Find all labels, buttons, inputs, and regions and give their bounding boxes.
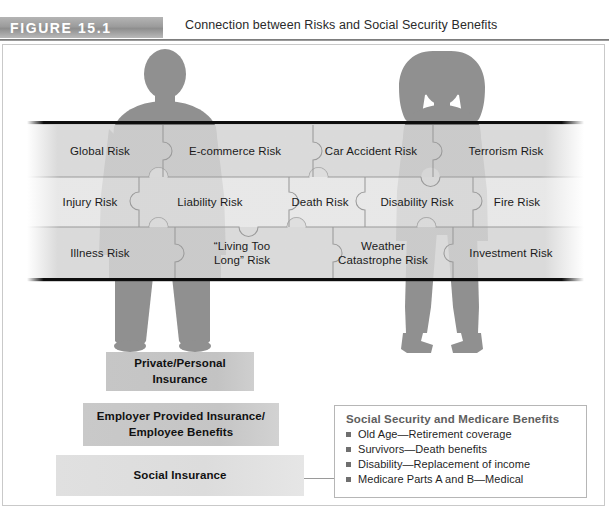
puzzle-piece-living-too-long-risk-line1: “Living Too bbox=[214, 240, 271, 252]
puzzle-piece-global-risk: Global Risk bbox=[70, 145, 130, 157]
puzzle-piece-injury-risk: Injury Risk bbox=[63, 196, 118, 208]
legend-item-label: Disability—Replacement of income bbox=[358, 459, 530, 471]
band-top-rule bbox=[27, 121, 584, 124]
bar-employer-line1: Employer Provided Insurance/ bbox=[97, 410, 265, 422]
pyramid-bar-social-insurance: Social Insurance bbox=[56, 455, 304, 496]
puzzle-piece-death-risk: Death Risk bbox=[291, 196, 348, 208]
pyramid-legend-connector-line bbox=[304, 478, 335, 479]
figure-header: FIGURE 15.1 Connection between Risks and… bbox=[0, 17, 609, 39]
puzzle-piece-disability-risk: Disability Risk bbox=[380, 196, 453, 208]
puzzle-piece-ecommerce-risk: E-commerce Risk bbox=[189, 145, 281, 157]
pyramid-bar-private-personal-insurance: Private/Personal Insurance bbox=[106, 352, 254, 391]
puzzle-piece-illness-risk: Illness Risk bbox=[70, 247, 130, 259]
legend-item: Old Age—Retirement coverage bbox=[346, 429, 586, 441]
puzzle-piece-investment-risk: Investment Risk bbox=[469, 247, 552, 259]
legend-item: Medicare Parts A and B—Medical bbox=[346, 474, 586, 486]
square-bullet-icon bbox=[346, 447, 351, 452]
puzzle-piece-terrorism-risk: Terrorism Risk bbox=[469, 145, 544, 157]
square-bullet-icon bbox=[346, 432, 351, 437]
benefits-legend-box: Social Security and Medicare Benefits Ol… bbox=[334, 405, 587, 498]
legend-title: Social Security and Medicare Benefits bbox=[346, 413, 586, 425]
band-bottom-rule bbox=[27, 278, 584, 281]
bar-private-line2: Insurance bbox=[152, 373, 207, 385]
bar-social-line1: Social Insurance bbox=[134, 468, 227, 484]
square-bullet-icon bbox=[346, 462, 351, 467]
puzzle-piece-weather-catastrophe-risk-line2: Catastrophe Risk bbox=[338, 254, 428, 266]
puzzle-piece-car-accident-risk: Car Accident Risk bbox=[325, 145, 418, 157]
bar-employer-line2: Employee Benefits bbox=[129, 426, 234, 438]
legend-item: Survivors—Death benefits bbox=[346, 444, 586, 456]
figure-panel: Global Risk E-commerce Risk Car Accident… bbox=[2, 44, 605, 506]
figure-title: Connection between Risks and Social Secu… bbox=[185, 18, 497, 32]
legend-item-label: Survivors—Death benefits bbox=[358, 444, 487, 456]
puzzle-piece-living-too-long-risk-line2: Long” Risk bbox=[214, 254, 270, 266]
puzzle-piece-liability-risk: Liability Risk bbox=[177, 196, 242, 208]
figure-number-tag: FIGURE 15.1 bbox=[0, 17, 163, 38]
pyramid-bar-employer-provided-insurance: Employer Provided Insurance/ Employee Be… bbox=[83, 403, 279, 446]
puzzle-piece-weather-catastrophe-risk-line1: Weather bbox=[361, 240, 405, 252]
legend-item-label: Medicare Parts A and B—Medical bbox=[358, 474, 523, 486]
legend-item-label: Old Age—Retirement coverage bbox=[358, 429, 512, 441]
legend-item: Disability—Replacement of income bbox=[346, 459, 586, 471]
bar-private-line1: Private/Personal bbox=[134, 357, 226, 369]
square-bullet-icon bbox=[346, 477, 351, 482]
header-divider bbox=[0, 39, 609, 41]
puzzle-piece-fire-risk: Fire Risk bbox=[494, 196, 540, 208]
